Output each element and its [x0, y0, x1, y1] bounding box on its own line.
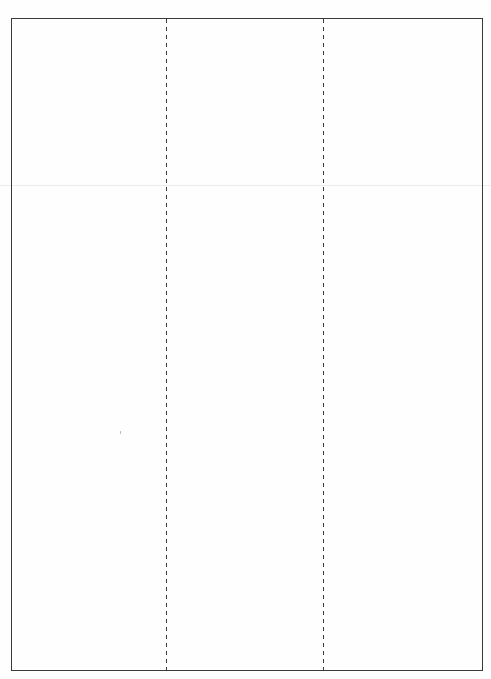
- panel-right-text: [324, 19, 325, 20]
- panel-left-text: [12, 19, 13, 20]
- panel-left: [12, 19, 166, 670]
- panel-right: [324, 19, 482, 670]
- page-border-frame: [11, 18, 483, 671]
- panel-middle: [167, 19, 323, 670]
- scan-speck: [120, 431, 121, 434]
- document-page: [0, 0, 491, 679]
- panel-middle-text: [167, 19, 168, 20]
